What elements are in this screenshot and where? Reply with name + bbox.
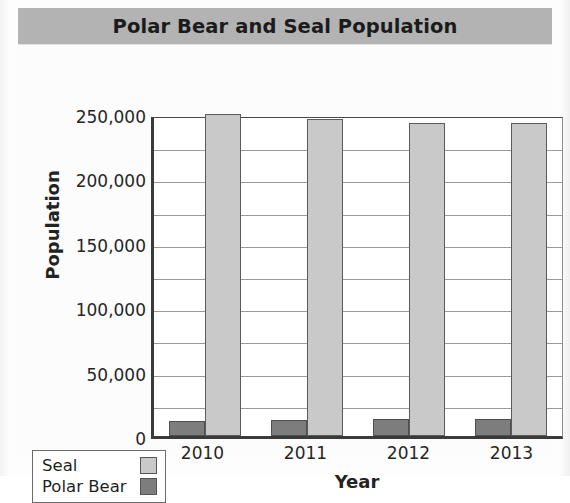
chart-legend: Seal Polar Bear bbox=[32, 450, 166, 503]
chart-title-bar: Polar Bear and Seal Population bbox=[18, 8, 552, 44]
bar-group-2010 bbox=[154, 118, 256, 436]
x-tick-label: 2010 bbox=[151, 443, 254, 469]
legend-item-polar-bear[interactable]: Polar Bear bbox=[42, 476, 157, 497]
legend-label-seal: Seal bbox=[42, 456, 134, 475]
y-tick-label: 50,000 bbox=[46, 365, 146, 385]
page-title: Polar Bear and Seal Population bbox=[113, 15, 458, 38]
bar-polar-bear-2013[interactable] bbox=[475, 419, 511, 436]
bar-seal-2010[interactable] bbox=[205, 114, 241, 436]
x-tick-label: 2011 bbox=[254, 443, 357, 469]
y-tick-label: 0 bbox=[46, 429, 146, 449]
legend-swatch-polar-bear-icon bbox=[140, 478, 157, 495]
chart-panel: Population 250,000 200,000 150,000 100,0… bbox=[18, 47, 552, 457]
y-axis-tick-labels: 250,000 200,000 150,000 100,000 50,000 0 bbox=[40, 117, 146, 439]
bar-seal-2012[interactable] bbox=[409, 123, 445, 436]
bar-polar-bear-2011[interactable] bbox=[271, 420, 307, 436]
legend-swatch-seal-icon bbox=[140, 457, 157, 474]
bar-polar-bear-2012[interactable] bbox=[373, 419, 409, 436]
y-tick-label: 150,000 bbox=[46, 236, 146, 256]
x-axis-title: Year bbox=[151, 471, 563, 492]
plot-area bbox=[151, 117, 563, 439]
bars-layer bbox=[154, 118, 562, 436]
y-tick-label: 100,000 bbox=[46, 300, 146, 320]
bar-seal-2011[interactable] bbox=[307, 119, 343, 436]
bar-polar-bear-2010[interactable] bbox=[169, 421, 205, 436]
legend-label-polar-bear: Polar Bear bbox=[42, 477, 134, 496]
x-tick-label: 2012 bbox=[357, 443, 460, 469]
x-axis-tick-labels: 2010 2011 2012 2013 bbox=[151, 443, 563, 469]
bar-group-2013 bbox=[460, 118, 562, 436]
bar-group-2012 bbox=[358, 118, 460, 436]
bar-seal-2013[interactable] bbox=[511, 123, 547, 436]
y-tick-label: 200,000 bbox=[46, 171, 146, 191]
bar-group-2011 bbox=[256, 118, 358, 436]
legend-item-seal[interactable]: Seal bbox=[42, 455, 157, 476]
y-tick-label: 250,000 bbox=[46, 107, 146, 127]
x-tick-label: 2013 bbox=[460, 443, 563, 469]
